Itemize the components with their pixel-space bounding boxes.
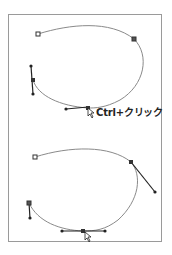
anchor-point[interactable] xyxy=(31,78,35,82)
handle-point[interactable] xyxy=(28,216,31,219)
handle-point[interactable] xyxy=(29,64,32,67)
anchor-point[interactable] xyxy=(129,160,133,164)
bezier-diagram xyxy=(0,0,172,255)
ctrl-click-annotation: Ctrl+クリック xyxy=(96,104,163,119)
handle-point[interactable] xyxy=(60,229,63,232)
handle-point[interactable] xyxy=(64,107,67,110)
cursor-arrow-icon xyxy=(85,232,91,242)
cursor-arrow-icon xyxy=(88,108,94,118)
anchor-point[interactable] xyxy=(81,229,85,233)
anchor-point[interactable] xyxy=(132,37,136,41)
bottom-path xyxy=(27,149,157,242)
anchor-point[interactable] xyxy=(36,32,40,36)
handle-point[interactable] xyxy=(153,190,156,193)
handle-point[interactable] xyxy=(31,92,34,95)
anchor-point[interactable] xyxy=(27,201,31,205)
handle-point[interactable] xyxy=(103,229,106,232)
anchor-point[interactable] xyxy=(33,155,37,159)
